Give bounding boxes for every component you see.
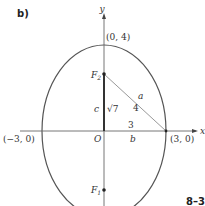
left-vertex-label: (−3, 0) (3, 134, 35, 144)
vert-val-label: √7 (107, 104, 119, 114)
hyp-val-label: 4 (133, 103, 139, 113)
x-axis-label: x (200, 126, 205, 136)
focus-f2-label: F2 (90, 70, 101, 81)
right-vertex-label: (3, 0) (170, 134, 194, 144)
horiz-var-label: b (130, 134, 136, 144)
top-vertex-label: (0, 4) (106, 32, 130, 42)
corner-text: 8–3 (186, 196, 205, 206)
focus-f1-label: F1 (90, 185, 101, 196)
vertex-right-point (165, 130, 168, 133)
x-axis-arrow-icon (192, 129, 198, 133)
hyp-var-label: a (138, 91, 143, 101)
horiz-val-label: 3 (128, 120, 134, 130)
y-axis-label: y (98, 4, 105, 14)
ellipse-diagram: b) y x (0, 4) (−3, 0) (3, 0) O F2 F1 a 4… (0, 0, 205, 206)
origin-label: O (94, 134, 102, 144)
focus-f1-point (102, 188, 106, 192)
panel-label: b) (17, 8, 29, 19)
vert-var-label: c (94, 104, 99, 114)
focus-f2-point (102, 72, 106, 76)
